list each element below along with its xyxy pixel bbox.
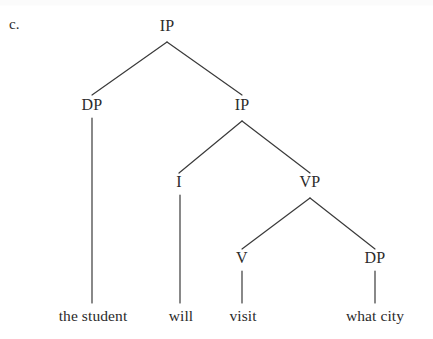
tree-node-v-head: V [236,250,248,266]
branch-ip-inner-to-i [179,121,242,173]
tree-node-i-head: I [176,174,182,190]
branch-ip-root-to-ip-inner [167,42,242,95]
tree-leaf-object: what city [346,308,404,324]
tree-node-vp: VP [300,174,321,190]
tree-node-dp-subj: DP [82,97,103,113]
tree-node-dp-obj: DP [365,250,386,266]
tree-leaf-visit: visit [229,308,256,324]
tree-leaf-will: will [169,308,194,324]
tree-leaf-subject: the student [59,308,128,324]
branch-ip-inner-to-vp [242,121,310,173]
branch-vp-to-v [242,198,310,249]
syntax-tree-figure: c. IPDPIPIVPVDP the studentwillvisitwhat… [0,0,433,339]
tree-node-ip-root: IP [160,18,175,34]
tree-node-ip-inner: IP [235,97,250,113]
branch-ip-root-to-dp-subj [92,42,167,95]
tree-branch-lines [0,0,433,339]
branch-vp-to-dp-obj [310,198,375,249]
